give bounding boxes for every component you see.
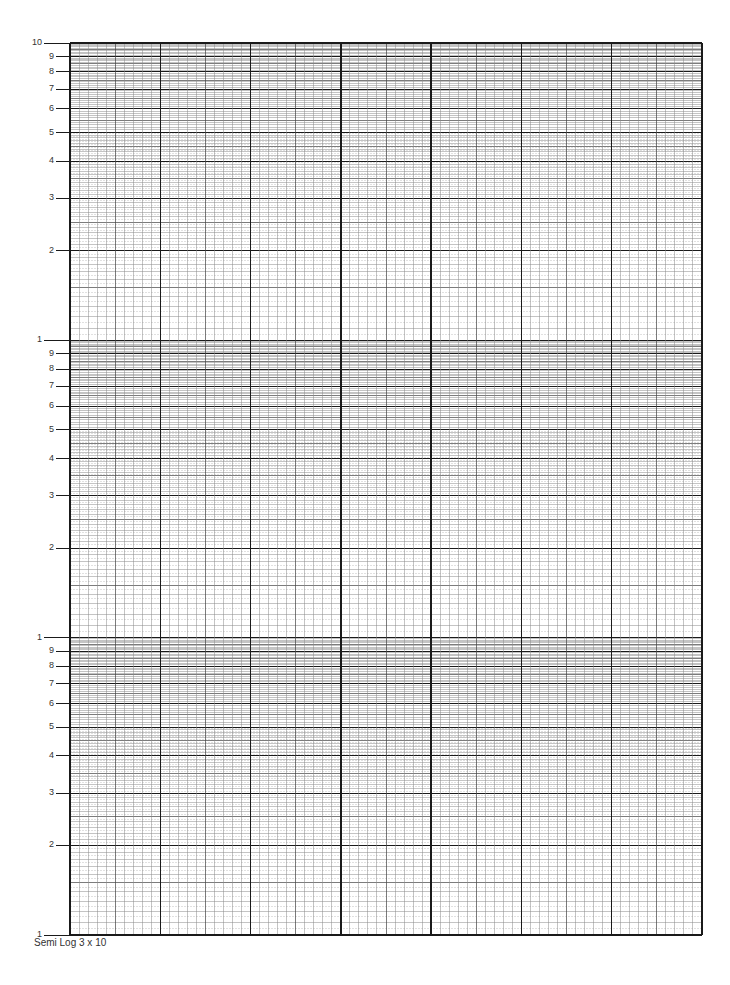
y-axis-label: 9 [34, 51, 54, 61]
y-axis-label: 6 [34, 103, 54, 113]
y-axis-label: 8 [34, 660, 54, 670]
y-axis-label: 4 [34, 750, 54, 760]
y-axis-label: 4 [34, 453, 54, 463]
y-axis-label: 4 [34, 155, 54, 165]
y-axis-label: 10 [22, 37, 42, 47]
y-axis-label: 9 [34, 645, 54, 655]
y-axis-label: 3 [34, 787, 54, 797]
y-axis-label: 6 [34, 400, 54, 410]
graph-paper [0, 0, 730, 985]
y-axis-label: 6 [34, 698, 54, 708]
y-axis-label: 1 [22, 334, 42, 344]
paper-caption: Semi Log 3 x 10 [34, 937, 106, 948]
y-axis-label: 8 [34, 363, 54, 373]
y-axis-label: 2 [34, 542, 54, 552]
y-axis-label: 1 [22, 632, 42, 642]
y-axis-label: 7 [34, 678, 54, 688]
y-axis-label: 3 [34, 490, 54, 500]
y-axis-label: 7 [34, 380, 54, 390]
y-axis-label: 3 [34, 192, 54, 202]
y-axis-label: 7 [34, 83, 54, 93]
y-axis-label: 2 [34, 839, 54, 849]
semi-log-grid [0, 0, 730, 985]
y-axis-label: 9 [34, 348, 54, 358]
y-axis-label: 2 [34, 245, 54, 255]
y-axis-label: 8 [34, 66, 54, 76]
y-axis-label: 5 [34, 127, 54, 137]
y-axis-label: 5 [34, 424, 54, 434]
y-axis-label: 5 [34, 721, 54, 731]
